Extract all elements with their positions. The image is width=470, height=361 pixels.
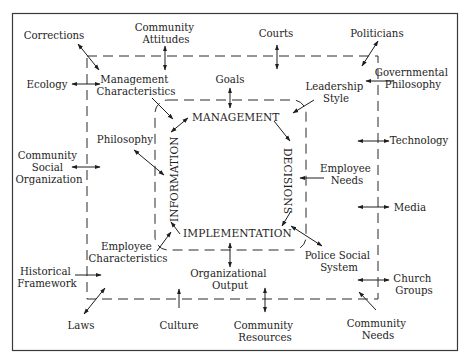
label-culture: Culture — [159, 320, 198, 331]
arrow-leadership — [293, 100, 314, 113]
label-employee-needs: Employee Needs — [320, 163, 374, 186]
arrow-philosophy — [134, 150, 164, 175]
core-implementation: IMPLEMENTATION — [183, 227, 292, 239]
label-technology: Technology — [390, 135, 449, 146]
label-ecology: Ecology — [27, 79, 68, 90]
label-employee-characteristics: Employee Characteristics — [89, 241, 168, 264]
label-community-resources: Community Resources — [234, 320, 297, 343]
arrow-mgmt-char — [152, 98, 173, 119]
label-community-needs: Community Needs — [347, 318, 410, 341]
label-goals: Goals — [216, 74, 245, 85]
arrow-info-management — [171, 118, 188, 132]
core-decisions: DECISIONS — [282, 148, 294, 214]
label-community-attitudes: Community Attitudes — [135, 22, 198, 45]
core-management: MANAGEMENT — [192, 111, 280, 123]
arrow-politicians — [362, 41, 378, 66]
label-organizational-output: Organizational Output — [190, 268, 270, 291]
label-management-characteristics: Management Characteristics — [97, 74, 176, 97]
label-corrections: Corrections — [24, 30, 85, 41]
arrow-community-needs — [359, 292, 376, 310]
arrow-management-decisions — [274, 121, 290, 141]
police-environment-diagram: MANAGEMENT IMPLEMENTATION INFORMATION DE… — [0, 0, 470, 361]
label-governmental-philosophy: Governmental Philosophy — [375, 67, 451, 90]
arrow-employee-char — [157, 232, 171, 251]
core-information: INFORMATION — [168, 136, 180, 222]
label-laws: Laws — [68, 320, 95, 331]
arrow-corrections — [78, 44, 99, 70]
label-police-social-system: Police Social System — [305, 250, 374, 273]
label-historical-framework: Historical Framework — [17, 266, 77, 289]
label-courts: Courts — [259, 28, 294, 39]
label-politicians: Politicians — [350, 28, 403, 39]
label-church-groups: Church Groups — [393, 273, 434, 296]
label-media: Media — [394, 202, 426, 213]
label-philosophy: Philosophy — [97, 134, 154, 145]
arrow-implementation-information — [171, 222, 180, 234]
label-leadership-style: Leadership Style — [305, 81, 366, 104]
